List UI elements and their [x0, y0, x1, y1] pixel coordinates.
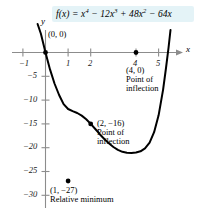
x-axis-arrow	[176, 49, 183, 55]
graph-figure: f(x) = x4 − 12x3 + 48x2 − 64x y x −1 1 2…	[0, 0, 199, 215]
x-tick-label-1: 1	[66, 59, 70, 68]
plot-canvas	[0, 0, 199, 215]
point-2-neg16	[88, 122, 93, 127]
y-tick-label--10: −10	[23, 95, 37, 104]
annotation-origin-coord: (0, 0)	[48, 30, 66, 39]
annotation-minimum-line1: Relative minimum	[50, 195, 114, 204]
data-points	[43, 50, 138, 183]
annotation-inflection-mid-line2: inflection	[97, 137, 130, 146]
x-tick-label--1: −1	[19, 59, 29, 68]
y-axis-label: y	[41, 17, 45, 26]
annotation-origin: (0, 0)	[48, 30, 66, 39]
y-tick-label--5: −5	[27, 71, 37, 80]
annotation-minimum: (1, −27) Relative minimum	[50, 186, 114, 204]
y-tick-label--15: −15	[23, 119, 37, 128]
annotation-inflection-right: (4, 0) Point of inflection	[126, 66, 159, 93]
x-axis-label: x	[186, 45, 190, 54]
point-0-0	[43, 50, 48, 55]
annotation-inflection-right-line2: inflection	[126, 84, 159, 93]
point-1-neg27	[66, 179, 71, 184]
y-tick-label--20: −20	[23, 142, 37, 151]
point-4-0	[134, 50, 139, 55]
x-tick-label-2: 2	[88, 59, 92, 68]
y-tick-label--30: −30	[23, 190, 37, 199]
x-axis	[12, 49, 183, 55]
y-tick-label--25: −25	[23, 166, 37, 175]
function-equation: f(x) = x4 − 12x3 + 48x2 − 64x	[56, 8, 172, 20]
annotation-inflection-mid: (2, −16) Point of inflection	[97, 119, 130, 146]
